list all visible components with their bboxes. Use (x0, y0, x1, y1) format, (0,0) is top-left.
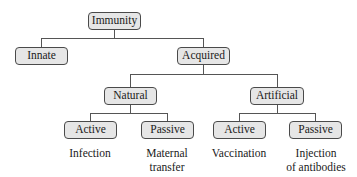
connector-to-innate (41, 38, 42, 48)
node-natural: Natural (104, 87, 157, 105)
example-infection-text: Infection (69, 147, 111, 159)
node-artificial: Artificial (250, 87, 304, 105)
connector-to-natural (130, 74, 131, 88)
example-injection-line1: Injection (280, 146, 352, 160)
connector-natural-bar (90, 113, 168, 114)
connector-immunity-bar (41, 38, 204, 39)
connector-to-artificial (277, 74, 278, 88)
example-infection: Infection (55, 146, 125, 160)
node-acquired: Acquired (177, 47, 230, 65)
connector-acquired-bar (130, 74, 278, 75)
example-maternal-transfer: Maternal transfer (132, 146, 202, 174)
node-artificial-active: Active (213, 121, 266, 139)
example-vaccination: Vaccination (204, 146, 274, 160)
example-injection-line2: of antibodies (280, 160, 352, 174)
node-immunity: Immunity (88, 12, 141, 30)
connector-to-acquired (203, 38, 204, 48)
node-artificial-passive: Passive (289, 121, 342, 139)
connector-acquired-stem (203, 64, 204, 74)
connector-artificial-bar (239, 113, 316, 114)
example-vaccination-text: Vaccination (212, 147, 266, 159)
node-natural-passive: Passive (141, 121, 194, 139)
node-innate: Innate (15, 47, 68, 65)
example-injection-of-antibodies: Injection of antibodies (280, 146, 352, 174)
example-maternal-transfer-line2: transfer (132, 160, 202, 174)
node-natural-active: Active (64, 121, 117, 139)
example-maternal-transfer-line1: Maternal (132, 146, 202, 160)
